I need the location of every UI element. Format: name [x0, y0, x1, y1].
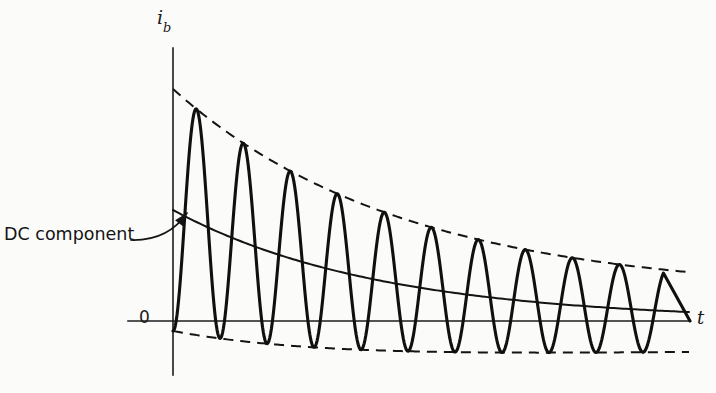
x-axis-label: t	[697, 309, 704, 327]
dc-component-curve	[173, 210, 689, 312]
y-axis-label-subscript: b	[163, 20, 171, 35]
figure-container: ib t 0 DC component	[0, 0, 716, 393]
annotation-group	[131, 213, 187, 240]
annotation-leader-line	[131, 213, 187, 240]
total-current-curve	[173, 109, 690, 353]
waveform-plot	[0, 0, 716, 393]
origin-label: 0	[139, 309, 150, 326]
y-axis-label: ib	[157, 8, 171, 32]
lower-envelope-curve	[173, 331, 689, 353]
dc-component-annotation-label: DC component	[4, 226, 134, 244]
